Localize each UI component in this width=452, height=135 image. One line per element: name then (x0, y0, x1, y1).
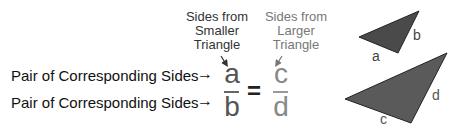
pointer-arrow-smaller (221, 56, 226, 64)
small-triangle-label-b: b (413, 27, 421, 43)
large-triangle-label-d: d (432, 87, 440, 103)
small-triangle (359, 11, 419, 53)
large-triangle-label-c: c (380, 111, 387, 127)
pointer-arrow-larger (277, 56, 282, 64)
small-triangle-shape (359, 11, 419, 53)
small-triangle-label-a: a (372, 48, 380, 64)
